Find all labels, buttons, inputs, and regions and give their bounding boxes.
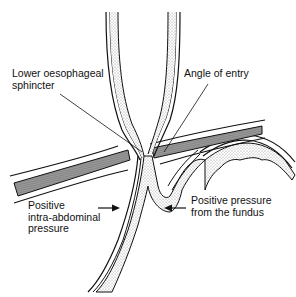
label-line: pressure: [28, 223, 100, 235]
angle-of-entry-label: Angle of entry: [184, 68, 249, 80]
arrow-right-icon: [98, 205, 120, 212]
label-line: sphincter: [12, 80, 104, 92]
fundus-pressure-label: Positive pressure from the fundus: [191, 195, 272, 218]
cardia: [88, 150, 205, 292]
label-line: from the fundus: [191, 207, 272, 219]
diaphragm-left: [10, 146, 130, 203]
intra-abdominal-pressure-label: Positive intra-abdominal pressure: [28, 200, 100, 235]
label-line: Positive pressure: [191, 195, 272, 207]
lower-oesophageal-sphincter-label: Lower oesophageal sphincter: [12, 68, 104, 91]
gastro-oesophageal-junction-diagram: [0, 0, 296, 297]
label-line: Angle of entry: [184, 68, 249, 80]
label-line: Lower oesophageal: [12, 68, 104, 80]
oesophagus: [106, 12, 180, 160]
label-line: Positive: [28, 200, 100, 212]
